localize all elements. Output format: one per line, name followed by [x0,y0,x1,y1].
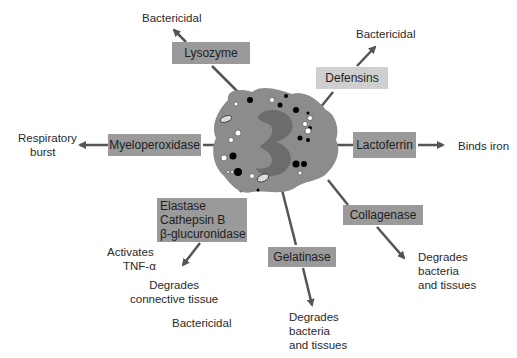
collagenase-effect-line2: bacteria [418,264,476,278]
beta-glucuronidase-label: β-glucuronidase [160,227,246,241]
lysozyme-box: Lysozyme [172,42,250,64]
activates-line: Activates [107,245,156,259]
myeloperoxidase-effect-line1: Respiratory [18,131,77,145]
defensins-label: Defensins [325,71,378,85]
gelatinase-label: Gelatinase [273,250,330,264]
lactoferrin-label: Lactoferrin [356,138,413,152]
collagenase-label: Collagenase [350,208,417,222]
degrades-line: Degrades [130,278,218,292]
lysozyme-label: Lysozyme [184,46,238,60]
neutrophil-cell-icon [213,88,338,193]
collagenase-effect: Degrades bacteria and tissues [418,250,476,292]
defensins-box: Defensins [316,67,388,89]
myeloperoxidase-effect: Respiratory burst [18,131,77,159]
tnf-alpha-line: TNF-α [107,259,156,273]
elastase-label: Elastase [160,199,206,213]
diagram-canvas [0,0,517,358]
defensins-effect: Bactericidal [356,27,415,41]
gelatinase-effect: Degrades bacteria and tissues [289,310,347,352]
lactoferrin-effect: Binds iron [458,139,509,153]
lysozyme-effect: Bactericidal [142,11,201,25]
myeloperoxidase-label: Myeloperoxidase [109,138,200,152]
degrades-connective-tissue-label: Degrades connective tissue [130,278,218,306]
myeloperoxidase-box: Myeloperoxidase [108,134,201,156]
connective-tissue-line: connective tissue [130,292,218,306]
activates-tnf-label: Activates TNF-α [107,245,156,273]
elastase-group-box: Elastase Cathepsin B β-glucuronidase [157,198,247,242]
gelatinase-box: Gelatinase [268,247,336,267]
gelatinase-effect-line2: bacteria [289,324,347,338]
elastase-bactericidal-label: Bactericidal [172,316,231,330]
collagenase-effect-line3: and tissues [418,278,476,292]
gelatinase-effect-line1: Degrades [289,310,347,324]
collagenase-effect-line1: Degrades [418,250,476,264]
gelatinase-effect-line3: and tissues [289,338,347,352]
collagenase-box: Collagenase [343,205,423,225]
lactoferrin-box: Lactoferrin [353,132,416,158]
cathepsin-b-label: Cathepsin B [160,213,225,227]
myeloperoxidase-effect-line2: burst [18,145,77,159]
